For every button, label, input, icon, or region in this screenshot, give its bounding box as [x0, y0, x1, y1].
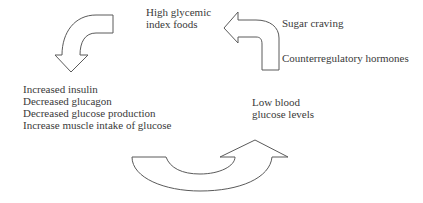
node-low-glucose-line-2: glucose levels — [252, 108, 314, 120]
node-low-glucose-line-1: Low blood — [252, 96, 314, 108]
label-counterregulatory-hormones: Counterregulatory hormones — [282, 52, 409, 64]
foods-to-insulin-arrow — [55, 15, 113, 72]
label-sugar-craving: Sugar craving — [282, 17, 343, 29]
node-low-glucose: Low blood glucose levels — [252, 96, 314, 120]
node-insulin-response-line-3: Decreased glucose production — [23, 107, 171, 119]
node-insulin-response-line-2: Decreased glucagon — [23, 95, 171, 107]
node-insulin-response: Increased insulin Decreased glucagon Dec… — [23, 83, 171, 131]
node-insulin-response-line-4: Increase muscle intake of glucose — [23, 119, 171, 131]
insulin-to-low-glucose-arrow — [132, 140, 288, 191]
node-high-gi-foods-line-1: High glycemic — [146, 6, 211, 18]
node-high-gi-foods: High glycemic index foods — [146, 6, 211, 30]
node-high-gi-foods-line-2: index foods — [146, 18, 211, 30]
node-insulin-response-line-1: Increased insulin — [23, 83, 171, 95]
low-glucose-to-foods-arrow — [224, 12, 279, 70]
